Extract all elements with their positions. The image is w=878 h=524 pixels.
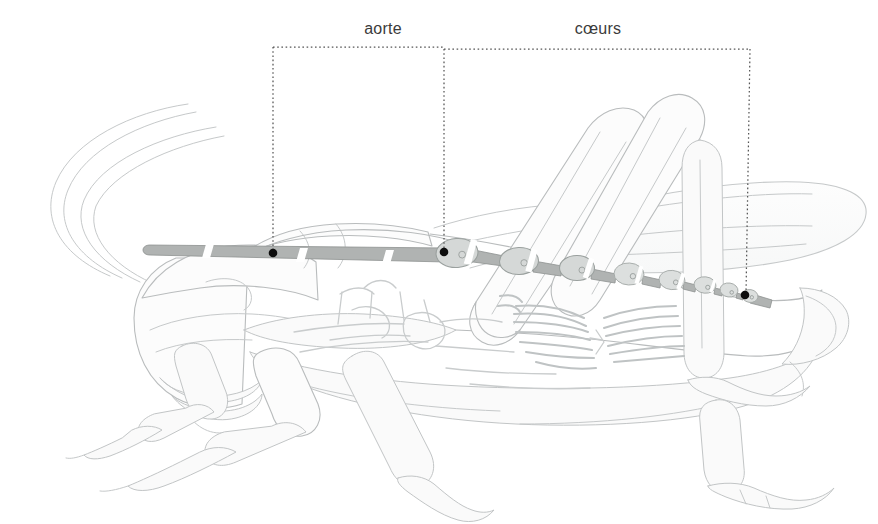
hindleg [470,94,834,509]
label-aorte: aorte [364,20,401,38]
label-coeurs: cœurs [575,20,621,38]
dot-aorta-anterior [269,249,278,258]
bracket-aorte [273,47,444,253]
dot-heart-last [741,291,750,300]
anatomy-figure: .ol { fill:none; stroke:#b9bcbd; stroke-… [0,0,878,524]
dot-heart-first [440,248,449,257]
grasshopper-diagram-svg: .ol { fill:none; stroke:#b9bcbd; stroke-… [0,0,878,524]
foreleg [66,343,320,491]
grasshopper-body [51,94,866,521]
midleg [343,351,494,521]
